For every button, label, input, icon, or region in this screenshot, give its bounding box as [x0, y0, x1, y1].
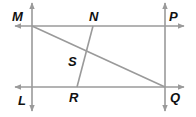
label-P: P — [169, 9, 178, 24]
label-L: L — [18, 93, 26, 108]
label-S: S — [68, 54, 77, 69]
label-R: R — [69, 90, 79, 105]
geometry-diagram: M N P S L R Q — [0, 0, 196, 117]
label-N: N — [89, 9, 99, 24]
label-M: M — [12, 9, 24, 24]
segment-MQ — [32, 26, 165, 87]
label-Q: Q — [170, 90, 180, 105]
segment-NR — [77, 26, 93, 87]
